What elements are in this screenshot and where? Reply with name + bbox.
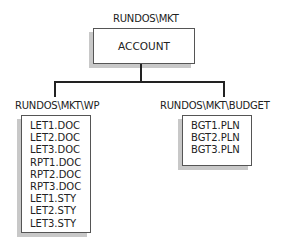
wp-file-list: LET1.DOC LET2.DOC LET3.DOC RPT1.DOC RPT2… <box>22 116 90 230</box>
file-item: LET3.DOC <box>30 144 90 156</box>
file-item: RPT3.DOC <box>30 181 90 193</box>
root-path-label: RUNDOS\MKT <box>113 13 179 24</box>
file-item: RPT2.DOC <box>30 169 90 181</box>
budget-path-label: RUNDOS\MKT\BUDGET <box>160 100 270 111</box>
file-item: LET2.STY <box>30 205 90 217</box>
root-folder-box: ACCOUNT <box>93 28 195 64</box>
connector-root-stem <box>140 64 142 82</box>
connector-horizontal <box>54 81 225 83</box>
root-folder-name: ACCOUNT <box>94 40 194 52</box>
file-item: LET1.DOC <box>30 120 90 132</box>
budget-file-list: BGT1.PLN BGT2.PLN BGT3.PLN <box>183 116 251 157</box>
file-item: LET1.STY <box>30 193 90 205</box>
file-item: BGT1.PLN <box>191 120 251 132</box>
budget-folder-box: BGT1.PLN BGT2.PLN BGT3.PLN <box>182 115 252 166</box>
file-item: BGT2.PLN <box>191 132 251 144</box>
wp-path-label: RUNDOS\MKT\WP <box>15 100 99 111</box>
file-item: BGT3.PLN <box>191 144 251 156</box>
file-item: RPT1.DOC <box>30 157 90 169</box>
file-item: LET2.DOC <box>30 132 90 144</box>
wp-folder-box: LET1.DOC LET2.DOC LET3.DOC RPT1.DOC RPT2… <box>21 115 91 233</box>
file-item: LET3.STY <box>30 218 90 230</box>
connector-budget-drop <box>223 81 225 97</box>
connector-wp-drop <box>54 81 56 97</box>
